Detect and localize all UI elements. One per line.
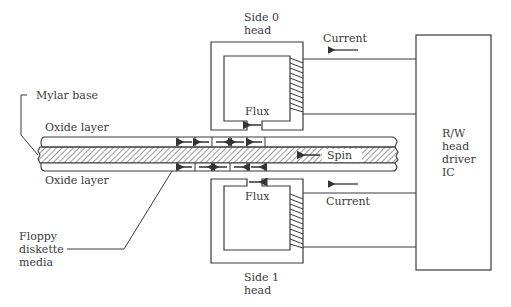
oxide-bottom-label: Oxide layer	[45, 174, 109, 187]
flux-bottom-label: Flux	[245, 190, 269, 203]
side0-coil	[290, 58, 303, 112]
spin-label: Spin	[327, 149, 352, 162]
current-top-label: Current	[323, 32, 367, 45]
current-bottom-label: Current	[326, 195, 370, 208]
driver-ic-label: R/W head driver IC	[442, 127, 476, 179]
floppy-head-diagram	[0, 0, 511, 307]
side1-head-label: Side 1 head	[244, 271, 279, 297]
mylar-base-label: Mylar base	[36, 89, 98, 102]
mylar-leader	[21, 95, 38, 155]
side1-coil	[290, 194, 303, 248]
flux-top-label: Flux	[245, 105, 269, 118]
oxide-top-label: Oxide layer	[45, 121, 109, 134]
side0-head-label: Side 0 head	[244, 11, 279, 37]
media-label: Floppy diskette media	[19, 230, 64, 269]
